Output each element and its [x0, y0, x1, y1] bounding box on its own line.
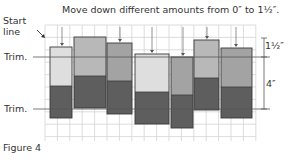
- arrow-head-icon: [234, 44, 238, 47]
- arrow-head-icon: [60, 43, 64, 46]
- strip-bottom-fabric: [135, 92, 169, 124]
- strip-top-fabric: [107, 43, 132, 81]
- strip-bottom-fabric: [171, 95, 193, 128]
- strip-bottom-fabric: [50, 86, 72, 118]
- strip-top-fabric: [221, 48, 252, 87]
- strip-offset-diagram: [0, 0, 299, 160]
- strip-bottom-fabric: [194, 78, 219, 110]
- strip-top-fabric: [135, 54, 169, 92]
- strip-top-fabric: [50, 47, 72, 86]
- strip-bottom-fabric: [221, 87, 252, 118]
- strip-top-fabric: [194, 40, 219, 78]
- strip-bottom-fabric: [74, 76, 106, 108]
- strip-top-fabric: [171, 57, 193, 95]
- strip-top-fabric: [74, 37, 106, 76]
- arrow-head-icon: [118, 39, 122, 42]
- arrow-head-icon: [150, 50, 154, 53]
